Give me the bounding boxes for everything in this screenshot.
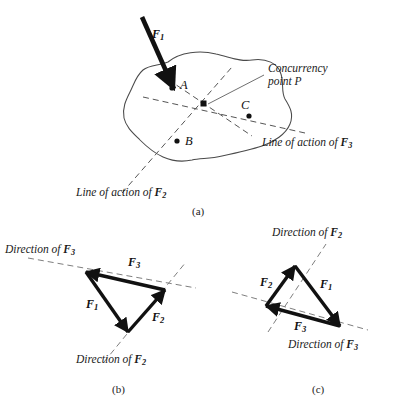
force-f2-sub-c: 2 <box>268 280 272 290</box>
direction-f3-sub-b: 3 <box>71 248 75 257</box>
point-a-label: A <box>180 78 188 93</box>
caption-c: (c) <box>312 383 324 395</box>
point-b-dot <box>174 138 179 143</box>
caption-b: (b) <box>112 383 125 395</box>
line-of-action-f3-label: Line of action of F3 <box>262 136 352 150</box>
panel-a-group <box>122 17 305 193</box>
direction-f2-sub-b: 2 <box>142 358 146 367</box>
concurrency-point-marker <box>201 101 207 107</box>
force-f3-name-b: F <box>128 255 136 269</box>
panel-b-group <box>28 258 196 362</box>
concurrency-point-label: Concurrency point P <box>268 62 328 88</box>
direction-f3-sub-c: 3 <box>354 343 358 352</box>
line-of-action-f2-label: Line of action of F2 <box>76 186 166 200</box>
force-f2-name-b: F <box>152 310 160 324</box>
line-of-action-f3 <box>143 97 305 133</box>
direction-f3-force-b: F <box>63 243 71 255</box>
force-f3-name-c: F <box>294 319 302 333</box>
concurrency-label-line1: Concurrency <box>268 62 328 75</box>
direction-line-f3-b <box>28 258 196 288</box>
point-a-text: A <box>180 78 188 92</box>
line-of-action-f2-sub: 2 <box>162 191 166 200</box>
force-f1-sub: 1 <box>160 32 164 42</box>
force-f1-label-b: F1 <box>86 297 98 312</box>
force-f3-label-c: F3 <box>294 319 306 334</box>
direction-of-f2-label-b: Direction of F2 <box>76 353 146 367</box>
direction-f3-force-c: F <box>346 338 354 350</box>
line-of-action-f2-prefix: Line of action of <box>76 186 155 198</box>
force-f1-name-c: F <box>320 277 328 291</box>
force-f1-sub-c: 1 <box>328 282 332 292</box>
concurrency-leader-line <box>208 75 264 104</box>
direction-of-f3-label-c: Direction of F3 <box>288 338 358 352</box>
force-f3-label-b: F3 <box>128 255 140 270</box>
force-f3-sub-b: 3 <box>136 260 140 270</box>
force-f2-label-b: F2 <box>152 310 164 325</box>
force-f2-sub-b: 2 <box>160 315 164 325</box>
force-f1-name-b: F <box>86 297 94 311</box>
direction-of-f3-label-b: Direction of F3 <box>5 243 75 257</box>
caption-a: (a) <box>192 205 204 217</box>
force-f2-label-c: F2 <box>260 275 272 290</box>
direction-f2-sub-c: 2 <box>338 231 342 240</box>
force-f1-label-a: F1 <box>152 27 164 42</box>
point-a-dot <box>169 85 174 90</box>
point-b-label: B <box>185 134 193 149</box>
direction-of-f2-label-c: Direction of F2 <box>272 226 342 240</box>
direction-f2-prefix-c: Direction of <box>272 226 330 238</box>
line-of-action-f3-sub: 3 <box>348 141 352 150</box>
direction-f3-prefix-c: Direction of <box>288 338 346 350</box>
direction-f3-prefix-b: Direction of <box>5 243 63 255</box>
point-c-text: C <box>241 98 249 112</box>
point-c-dot <box>246 113 251 118</box>
force-f1-label-c: F1 <box>320 277 332 292</box>
force-f3-sub-c: 3 <box>302 324 306 334</box>
point-b-text: B <box>185 134 193 148</box>
line-of-action-f3-prefix: Line of action of <box>262 136 341 148</box>
direction-f2-force-c: F <box>330 226 338 238</box>
force-f1-sub-b: 1 <box>94 302 98 312</box>
direction-f2-prefix-b: Direction of <box>76 353 134 365</box>
figure-root: F1 A B C Concurrency point P Line of act… <box>0 0 406 403</box>
force-f1-name: F <box>152 27 160 41</box>
point-c-label: C <box>241 98 249 113</box>
force-f2-name-c: F <box>260 275 268 289</box>
direction-f2-force-b: F <box>134 353 142 365</box>
concurrency-label-line2: point P <box>268 75 328 88</box>
